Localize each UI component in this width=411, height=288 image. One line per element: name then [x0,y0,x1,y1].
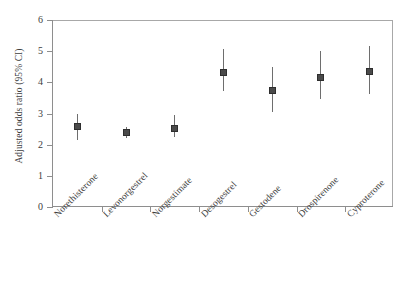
data-marker [123,129,130,136]
y-tick-label: 1 [38,170,43,181]
data-marker [220,69,227,76]
y-tick-label: 4 [38,76,43,87]
y-tick-label: 5 [38,45,43,56]
y-tick: 3 [47,114,53,115]
data-marker [171,125,178,132]
y-tick: 6 [47,20,53,21]
y-tick-label: 3 [38,108,43,119]
y-tick: 5 [47,51,53,52]
y-axis-title: Adjusted odds ratio (95% CI) [14,6,30,206]
plot-area: 0123456 [52,20,393,207]
y-tick-label: 6 [38,14,43,25]
y-tick: 1 [47,176,53,177]
plot-frame-top [53,20,393,21]
y-tick-label: 2 [38,139,43,150]
y-tick: 0 [47,207,53,208]
forest-plot-figure: Adjusted odds ratio (95% CI) 0123456 Nor… [0,0,411,288]
y-tick: 2 [47,145,53,146]
data-marker [74,123,81,130]
y-tick-label: 0 [38,201,43,212]
y-tick: 4 [47,82,53,83]
plot-frame-right [392,20,393,206]
data-marker [317,74,324,81]
data-marker [366,68,373,75]
data-marker [269,87,276,94]
